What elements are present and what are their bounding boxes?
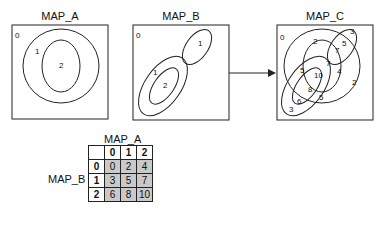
matrix-cell: 5 bbox=[121, 174, 137, 188]
matrix-cell: 0 bbox=[105, 160, 121, 174]
matrix-cell: 6 bbox=[105, 188, 121, 202]
svg-text:2: 2 bbox=[163, 81, 168, 90]
svg-text:2: 2 bbox=[352, 78, 357, 87]
matrix-corner bbox=[89, 146, 105, 160]
svg-text:5: 5 bbox=[342, 39, 347, 48]
svg-text:1: 1 bbox=[198, 39, 203, 48]
svg-text:2: 2 bbox=[59, 61, 64, 70]
svg-text:7: 7 bbox=[335, 46, 340, 55]
svg-text:0: 0 bbox=[280, 33, 285, 42]
col-label: 0 bbox=[105, 146, 121, 160]
matrix-row-header: MAP_B bbox=[48, 173, 85, 185]
svg-text:8: 8 bbox=[308, 85, 313, 94]
svg-text:0: 0 bbox=[136, 31, 141, 40]
col-label: 2 bbox=[137, 146, 153, 160]
svg-text:0: 0 bbox=[15, 31, 20, 40]
map-a-frame bbox=[12, 25, 108, 119]
svg-text:10: 10 bbox=[314, 71, 323, 80]
svg-text:5: 5 bbox=[319, 93, 324, 102]
matrix-cell: 4 bbox=[137, 160, 153, 174]
map-b-small-zone bbox=[177, 24, 218, 69]
map-b-frame bbox=[133, 25, 229, 120]
row-label: 1 bbox=[89, 174, 105, 188]
svg-text:3: 3 bbox=[289, 105, 294, 114]
svg-text:2: 2 bbox=[313, 37, 318, 46]
svg-text:1: 1 bbox=[153, 68, 158, 77]
map-c-inner-b bbox=[287, 63, 327, 109]
matrix-cell: 7 bbox=[137, 174, 153, 188]
row-label: 0 bbox=[89, 160, 105, 174]
svg-text:7: 7 bbox=[326, 59, 331, 68]
matrix-col-header: MAP_A bbox=[104, 133, 141, 145]
svg-text:5: 5 bbox=[300, 66, 305, 75]
svg-text:6: 6 bbox=[297, 97, 302, 106]
arrow-head-icon bbox=[268, 69, 276, 77]
matrix-cell: 3 bbox=[105, 174, 121, 188]
col-label: 1 bbox=[121, 146, 137, 160]
matrix-cell: 10 bbox=[137, 188, 153, 202]
matrix-cell: 2 bbox=[121, 160, 137, 174]
svg-text:4: 4 bbox=[337, 67, 342, 76]
svg-text:3: 3 bbox=[350, 27, 355, 36]
svg-text:1: 1 bbox=[35, 47, 40, 56]
row-label: 2 bbox=[89, 188, 105, 202]
combination-matrix: 0 1 2 0 0 2 4 1 3 5 7 2 6 8 10 bbox=[88, 145, 153, 202]
matrix-cell: 8 bbox=[121, 188, 137, 202]
